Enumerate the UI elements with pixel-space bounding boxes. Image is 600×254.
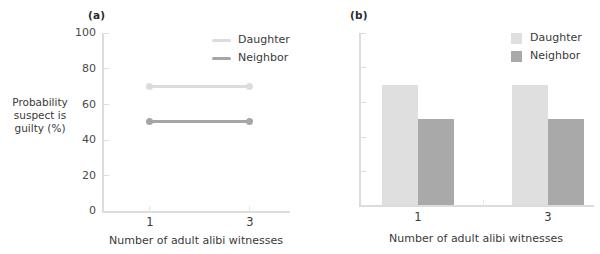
panel-a-label: (a) [88, 9, 105, 21]
panel-a-xtick-mark-1 [149, 206, 150, 212]
legend-swatch-line-neighbor [212, 57, 231, 60]
panel-b-ytick-100 [360, 33, 366, 34]
panel-b-y-axis-line [359, 33, 361, 206]
panel-b-bar-chart: (b) 1 3 Number of adult alibi witnesses … [300, 0, 600, 254]
panel-a-ytick-80 [103, 68, 109, 69]
panel-a-ytick-60 [103, 104, 109, 105]
legend-swatch-box-neighbor [511, 51, 522, 62]
series-line-daughter [150, 85, 250, 88]
panel-a-ytick-label-100: 100 [66, 27, 96, 38]
bar-daughter-1 [382, 85, 418, 205]
panel-a-ytick-20 [103, 175, 109, 176]
panel-b-ytick-40 [360, 137, 366, 138]
panel-a-xtick-mark-3 [249, 206, 250, 212]
panel-b-ytick-80 [360, 67, 366, 68]
panel-a-line-chart: (a) Probability suspect is guilty (%) 10… [0, 0, 300, 254]
bar-neighbor-1 [418, 119, 454, 205]
legend-item-neighbor: Neighbor [212, 49, 290, 67]
panel-a-x-axis-line [102, 211, 290, 213]
panel-a-legend: Daughter Neighbor [212, 31, 290, 67]
legend-label-neighbor: Neighbor [238, 52, 288, 64]
y-axis-title-line-2: suspect is [4, 109, 76, 122]
panel-b-x-axis-line [359, 205, 594, 207]
panel-a-xtick-label-3: 3 [235, 216, 265, 228]
legend-swatch-box-daughter [511, 33, 522, 44]
series-line-neighbor [150, 120, 250, 123]
legend-item-neighbor-b: Neighbor [507, 47, 582, 65]
panel-a-ytick-100 [103, 33, 109, 34]
legend-label-daughter: Daughter [238, 34, 290, 46]
bar-daughter-3 [512, 85, 548, 205]
panel-a-ytick-label-20: 20 [66, 170, 96, 181]
panel-b-xtick-mark-1 [483, 200, 484, 206]
panel-a-ytick-label-0: 0 [66, 205, 96, 216]
legend-label-neighbor-b: Neighbor [530, 50, 580, 62]
panel-b-ytick-20 [360, 171, 366, 172]
panel-b-x-axis-title: Number of adult alibi witnesses [376, 232, 576, 245]
legend-swatch-line-daughter [212, 39, 231, 42]
figure-two-panel-chart: (a) Probability suspect is guilty (%) 10… [0, 0, 600, 254]
panel-a-ytick-label-60: 60 [66, 99, 96, 110]
series-point-daughter-3 [246, 83, 253, 90]
panel-b-ytick-60 [360, 102, 366, 103]
legend-item-daughter: Daughter [212, 31, 290, 49]
bar-neighbor-3 [548, 119, 584, 205]
panel-a-y-axis-line [102, 33, 104, 212]
panel-a-x-axis-title: Number of adult alibi witnesses [96, 234, 296, 247]
panel-b-label: (b) [350, 9, 368, 21]
series-point-neighbor-3 [246, 118, 253, 125]
panel-a-xtick-label-1: 1 [135, 216, 165, 228]
legend-label-daughter-b: Daughter [530, 32, 582, 44]
panel-a-ytick-40 [103, 140, 109, 141]
series-point-neighbor-1 [146, 118, 153, 125]
panel-b-xtick-label-3: 3 [533, 211, 563, 223]
series-point-daughter-1 [146, 83, 153, 90]
legend-item-daughter-b: Daughter [507, 29, 582, 47]
panel-b-legend: Daughter Neighbor [507, 29, 582, 65]
panel-a-ytick-label-80: 80 [66, 63, 96, 74]
panel-b-xtick-label-1: 1 [403, 211, 433, 223]
panel-a-ytick-label-40: 40 [66, 134, 96, 145]
